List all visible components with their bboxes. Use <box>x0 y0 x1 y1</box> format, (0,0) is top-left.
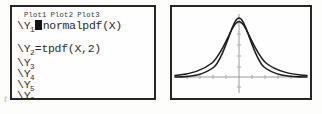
page-smudge-artifact: t <box>4 92 7 104</box>
plot-tab-1[interactable]: Plot1 <box>24 11 47 19</box>
screenshot-root: Plot1Plot2Plot3 \Y1normalpdf(X) \Y2=tpdf… <box>0 0 322 114</box>
density-plot <box>172 7 310 98</box>
function-expression-y1[interactable]: normalpdf(X) <box>43 19 122 32</box>
y-editor-screen[interactable]: Plot1Plot2Plot3 \Y1normalpdf(X) \Y2=tpdf… <box>10 5 156 100</box>
plot-tabs-row: Plot1Plot2Plot3 <box>24 11 104 19</box>
function-label-y6: \Y <box>17 89 30 100</box>
text-cursor-block <box>35 20 42 30</box>
curve-normalpdf <box>175 18 307 77</box>
function-row-y1[interactable]: \Y1normalpdf(X) <box>17 19 122 32</box>
plot-tab-3[interactable]: Plot3 <box>77 11 100 19</box>
function-row-y6[interactable]: \Y6 <box>17 89 35 100</box>
function-row-y2[interactable]: \Y2=tpdf(X,2) <box>17 42 101 55</box>
function-label-y1: \Y <box>17 19 30 32</box>
plot-tab-2[interactable]: Plot2 <box>51 11 74 19</box>
function-expression-y2[interactable]: tpdf(X,2) <box>41 42 100 55</box>
function-subscript-y6: 6 <box>30 96 34 101</box>
graph-screen[interactable] <box>170 5 312 100</box>
function-subscript-y1: 1 <box>30 26 34 34</box>
function-label-y2: \Y <box>17 42 30 55</box>
